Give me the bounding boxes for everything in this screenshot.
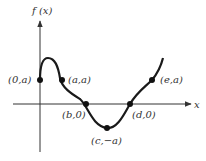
label-0-a: (0,a) (8, 74, 31, 85)
point-e-a (149, 77, 155, 83)
point-d-0 (127, 101, 133, 107)
label-a-a: (a,a) (68, 74, 91, 85)
function-graph: f (x) x (0,a) (a,a) (b,0) (c,−a) (d,0) (… (0, 0, 206, 161)
label-c-neg-a: (c,−a) (91, 135, 122, 146)
point-c-neg-a (104, 125, 110, 131)
point-a-a (59, 77, 65, 83)
label-e-a: (e,a) (160, 74, 183, 85)
label-d-0: (d,0) (132, 109, 156, 120)
y-axis-label: f (x) (31, 5, 52, 16)
point-b-0 (83, 101, 89, 107)
x-axis-label: x (194, 99, 200, 110)
label-b-0: (b,0) (62, 109, 86, 120)
point-0-a (37, 77, 43, 83)
